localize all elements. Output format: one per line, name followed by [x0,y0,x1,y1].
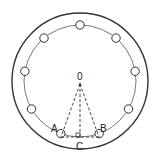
flange-diagram: 0 A B C [0,0,159,159]
label-C: C [76,141,83,152]
line-OA [61,84,80,137]
line-OB [80,84,99,137]
right-angle-marker [76,133,80,137]
bolt-hole [40,34,48,42]
bolt-hole [27,105,35,113]
bolt-hole [124,105,132,113]
bolt-hole [112,34,120,42]
label-O: 0 [77,71,83,82]
bolt-hole [76,21,84,29]
arrow-head-icon [79,82,82,86]
bolt-hole [131,67,139,75]
label-B: B [100,123,107,134]
bolt-hole [21,67,29,75]
label-A: A [51,123,58,134]
